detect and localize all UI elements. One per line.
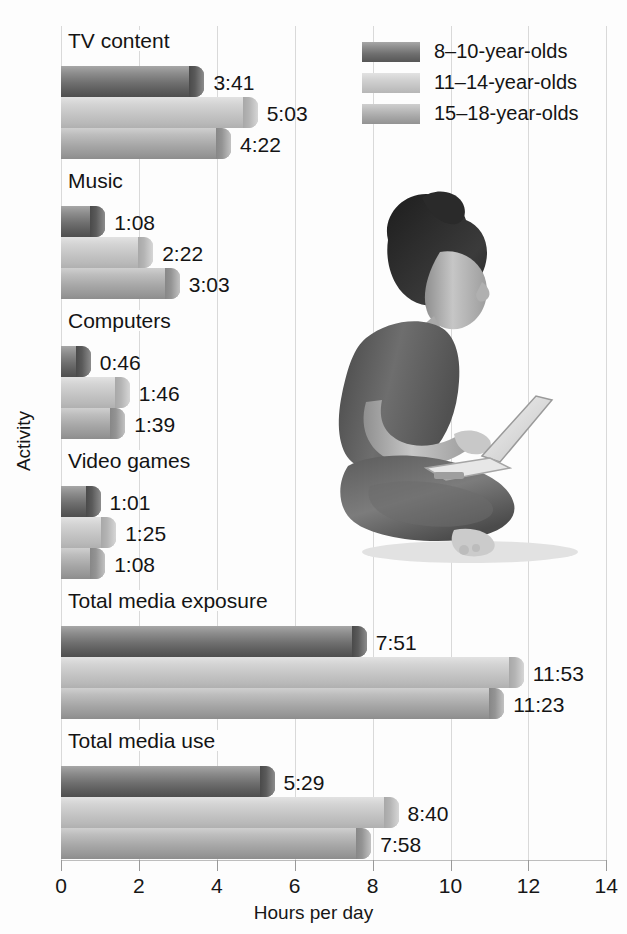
bar-value-label: 4:22 <box>240 134 281 155</box>
gridline <box>606 26 607 860</box>
bar-value-label: 1:25 <box>125 523 166 544</box>
x-tick-label: 8 <box>353 874 393 898</box>
category-label: Music <box>66 170 127 191</box>
bar-value-label: 0:46 <box>100 352 141 373</box>
x-tick <box>451 860 452 871</box>
x-axis-line <box>61 860 606 861</box>
bar-value-label: 1:08 <box>114 554 155 575</box>
y-axis-title: Activity <box>13 381 35 501</box>
bar-value-label: 1:01 <box>110 492 151 513</box>
legend-label: 11–14-year-olds <box>434 71 577 94</box>
bar <box>61 548 105 579</box>
x-axis-title: Hours per day <box>0 902 627 924</box>
bar <box>61 657 524 688</box>
bar <box>61 408 125 439</box>
bar <box>61 517 116 548</box>
bar-value-label: 7:51 <box>376 632 417 653</box>
x-tick-label: 4 <box>197 874 237 898</box>
category-label: Total media exposure <box>66 590 272 611</box>
bar <box>61 66 204 97</box>
legend-swatch-icon <box>362 42 420 62</box>
bar <box>61 486 101 517</box>
bar <box>61 97 258 128</box>
bar-value-label: 2:22 <box>162 243 203 264</box>
bar <box>61 128 231 159</box>
bar <box>61 377 130 408</box>
category-label: TV content <box>66 30 174 51</box>
bar-value-label: 7:58 <box>380 834 421 855</box>
x-tick <box>61 860 62 871</box>
bar <box>61 268 180 299</box>
legend-swatch-icon <box>362 73 420 93</box>
bar-value-label: 3:41 <box>213 72 254 93</box>
legend-item: 15–18-year-olds <box>362 100 579 127</box>
bar-value-label: 11:53 <box>533 663 584 684</box>
bar-value-label: 1:08 <box>114 212 155 233</box>
bar-value-label: 11:23 <box>513 694 564 715</box>
bar-value-label: 1:46 <box>139 383 180 404</box>
bar <box>61 828 371 859</box>
legend-label: 15–18-year-olds <box>434 102 579 125</box>
x-tick-label: 2 <box>119 874 159 898</box>
bar-value-label: 8:40 <box>408 803 449 824</box>
x-tick <box>139 860 140 871</box>
x-tick <box>373 860 374 871</box>
x-tick <box>295 860 296 871</box>
bar <box>61 626 367 657</box>
bar <box>61 766 275 797</box>
legend-swatch-icon <box>362 104 420 124</box>
laptop-photo <box>330 186 602 578</box>
legend-label: 8–10-year-olds <box>434 40 567 63</box>
legend-item: 8–10-year-olds <box>362 38 579 65</box>
bar <box>61 346 91 377</box>
bar <box>61 206 105 237</box>
x-tick <box>528 860 529 871</box>
category-label: Video games <box>66 450 194 471</box>
bar-value-label: 5:03 <box>267 103 308 124</box>
bar-value-label: 5:29 <box>284 772 325 793</box>
x-tick-label: 0 <box>41 874 81 898</box>
bar <box>61 237 153 268</box>
x-tick-label: 6 <box>275 874 315 898</box>
x-tick <box>606 860 607 871</box>
legend-item: 11–14-year-olds <box>362 69 579 96</box>
x-tick <box>217 860 218 871</box>
category-label: Computers <box>66 310 175 331</box>
bar-value-label: 1:39 <box>134 414 175 435</box>
category-label: Total media use <box>66 730 219 751</box>
chart-figure: TV content3:415:034:22Music1:082:223:03C… <box>0 0 627 934</box>
x-tick-label: 12 <box>508 874 548 898</box>
gridline <box>295 26 296 860</box>
legend: 8–10-year-olds 11–14-year-olds 15–18-yea… <box>362 38 579 131</box>
x-tick-label: 14 <box>586 874 626 898</box>
bar-value-label: 3:03 <box>189 274 230 295</box>
bar <box>61 797 399 828</box>
bar <box>61 688 504 719</box>
x-tick-label: 10 <box>431 874 471 898</box>
